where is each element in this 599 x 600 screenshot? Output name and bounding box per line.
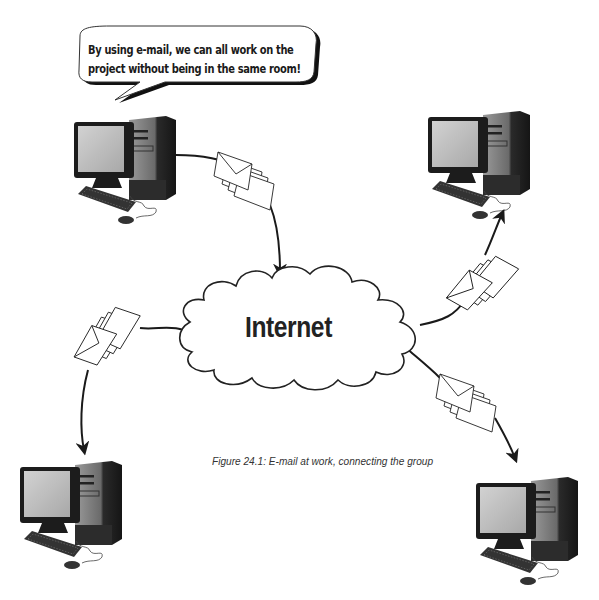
- speech-line-1: By using e-mail, we can all work on the: [88, 41, 264, 60]
- speech-bubble-text: By using e-mail, we can all work on the …: [88, 41, 264, 79]
- computer-bottom-right: [476, 477, 578, 585]
- figure-caption: Figure 24.1: E-mail at work, connecting …: [212, 455, 433, 467]
- computer-top-right: [428, 111, 530, 219]
- envelope-stack-icon: [214, 152, 274, 210]
- speech-line-2: project without being in the same room!: [88, 60, 264, 79]
- envelope-stack-icon: [436, 374, 496, 432]
- cloud-label: Internet: [245, 310, 332, 344]
- computer-top-left: [74, 116, 176, 224]
- computer-bottom-left: [20, 461, 122, 569]
- diagram-canvas: [0, 0, 599, 600]
- envelope-stack-icon: [73, 302, 141, 371]
